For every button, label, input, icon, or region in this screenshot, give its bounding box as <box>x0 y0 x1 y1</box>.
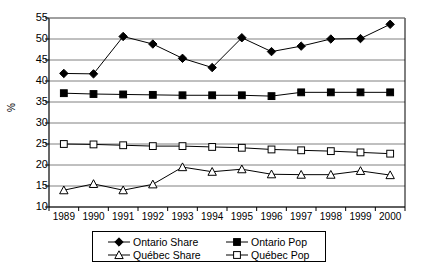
plot-area <box>0 0 423 270</box>
data-point-open-square <box>357 149 364 156</box>
legend-label: Québec Share <box>133 249 201 261</box>
gridlines <box>49 18 405 207</box>
data-point-filled-square <box>268 93 275 100</box>
series-line <box>64 167 390 190</box>
data-point-filled-diamond <box>149 40 157 48</box>
x-axis-tick-labels: 1989199019911992199319941995199619971998… <box>49 210 407 226</box>
data-point-open-triangle <box>89 180 97 188</box>
data-point-open-square <box>90 141 97 148</box>
data-point-filled-diamond <box>297 42 305 50</box>
data-point-filled-square <box>357 89 364 96</box>
series-québec-share <box>60 163 395 194</box>
data-series-group <box>60 20 395 194</box>
series-line <box>64 144 390 154</box>
legend-item: Québec Share <box>107 248 201 262</box>
x-axis-tick-label: 2000 <box>373 212 407 222</box>
data-point-filled-square <box>120 91 127 98</box>
chart-container: % 10152025303540455055 19891990199119921… <box>0 0 423 270</box>
data-point-filled-square <box>90 91 97 98</box>
legend-label: Québec Pop <box>251 249 309 261</box>
data-point-open-square <box>179 143 186 150</box>
data-point-filled-diamond <box>267 47 275 55</box>
data-point-filled-square <box>298 89 305 96</box>
series-ontario-pop <box>60 89 393 100</box>
series-ontario-share <box>60 20 395 78</box>
data-point-open-square <box>60 141 67 148</box>
data-point-filled-square <box>209 92 216 99</box>
data-point-open-square <box>327 148 334 155</box>
data-point-filled-diamond <box>386 20 394 28</box>
data-point-filled-diamond <box>356 34 364 42</box>
data-point-open-square <box>234 252 241 259</box>
data-point-filled-square <box>149 91 156 98</box>
data-point-open-square <box>268 146 275 153</box>
legend-item: Ontario Share <box>107 235 198 249</box>
data-point-open-triangle <box>178 163 186 171</box>
data-point-filled-square <box>238 92 245 99</box>
series-line <box>64 92 390 96</box>
data-point-filled-square <box>327 89 334 96</box>
legend-item: Ontario Pop <box>225 235 307 249</box>
data-point-filled-diamond <box>178 54 186 62</box>
series-québec-pop <box>60 141 393 157</box>
series-line <box>64 24 390 74</box>
data-point-filled-square <box>60 90 67 97</box>
plot-frame <box>49 18 405 207</box>
data-point-open-triangle <box>149 180 157 188</box>
data-point-filled-square <box>387 89 394 96</box>
data-point-filled-diamond <box>60 69 68 77</box>
data-point-filled-square <box>234 239 241 246</box>
legend-label: Ontario Share <box>133 236 198 248</box>
data-point-open-square <box>238 144 245 151</box>
data-point-open-triangle <box>238 165 246 173</box>
data-point-open-triangle <box>356 167 364 175</box>
legend-marker-open-square-icon <box>225 249 249 261</box>
chart-legend: Ontario ShareOntario PopQuébec ShareQuéb… <box>92 231 326 262</box>
data-point-open-square <box>149 143 156 150</box>
legend-marker-open-triangle-icon <box>107 249 131 261</box>
legend-marker-filled-diamond-icon <box>107 236 131 248</box>
data-point-open-square <box>387 150 394 157</box>
legend-label: Ontario Pop <box>251 236 307 248</box>
data-point-open-square <box>120 142 127 149</box>
legend-item: Québec Pop <box>225 248 309 262</box>
legend-marker-filled-square-icon <box>225 236 249 248</box>
data-point-filled-square <box>179 92 186 99</box>
data-point-open-square <box>209 144 216 151</box>
data-point-filled-diamond <box>115 238 123 246</box>
data-point-filled-diamond <box>327 35 335 43</box>
data-point-open-square <box>298 147 305 154</box>
